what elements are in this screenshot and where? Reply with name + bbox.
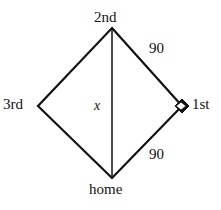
vertex-label-third-base: 3rd	[3, 97, 23, 112]
measure-label-diagonal-unknown: x	[94, 99, 100, 113]
vertex-label-first-base: 1st	[192, 97, 210, 112]
vertex-label-home-plate: home	[89, 182, 122, 197]
diamond-diagram-svg	[0, 0, 221, 210]
geometry-figure: 2nd 3rd 1st home 90 90 x	[0, 0, 221, 210]
vertex-label-second-base: 2nd	[94, 10, 117, 25]
measure-label-second-to-first: 90	[149, 41, 164, 56]
measure-label-first-to-home: 90	[149, 147, 164, 162]
